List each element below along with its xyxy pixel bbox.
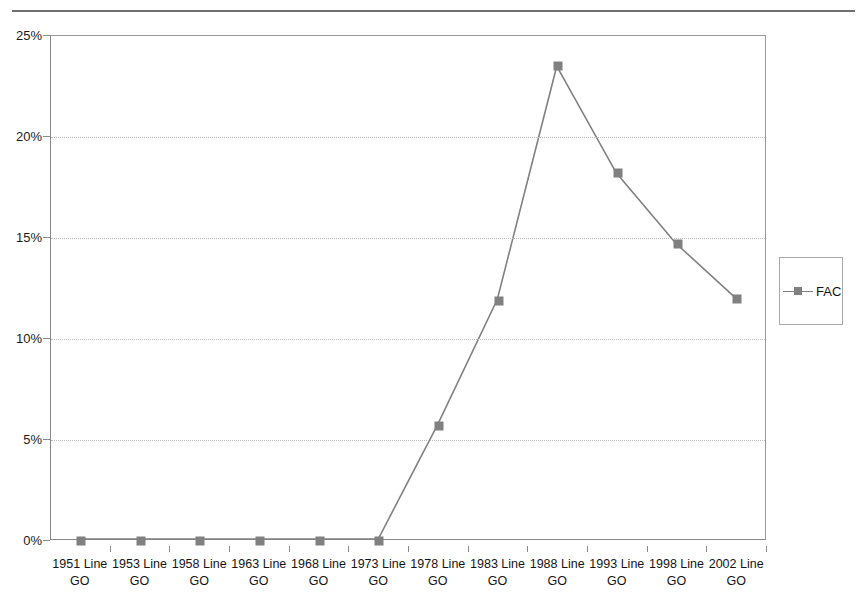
gridline: [51, 238, 765, 239]
x-tick-label: 1951 LineGO: [52, 556, 107, 590]
data-point-marker: [76, 537, 85, 546]
data-point-marker: [733, 294, 742, 303]
x-tick-label: 1963 LineGO: [231, 556, 286, 590]
data-point-marker: [196, 537, 205, 546]
x-tick-mark: [766, 546, 767, 552]
legend-square-marker-icon: [794, 287, 802, 295]
x-tick-label: 1983 LineGO: [470, 556, 525, 590]
y-tick-mark: [43, 35, 50, 36]
data-point-marker: [613, 169, 622, 178]
y-tick-label: 15%: [16, 230, 42, 245]
x-tick-label: 1968 LineGO: [291, 556, 346, 590]
data-point-marker: [136, 537, 145, 546]
series-line-fac: [51, 36, 765, 539]
x-tick-mark: [348, 546, 349, 552]
x-tick-label: 1988 LineGO: [530, 556, 585, 590]
x-tick-mark: [647, 546, 648, 552]
x-tick-label: 1973 LineGO: [351, 556, 406, 590]
data-point-marker: [494, 296, 503, 305]
data-point-marker: [375, 537, 384, 546]
legend-line-icon: [783, 287, 813, 296]
x-axis: 1951 LineGO1953 LineGO1958 LineGO1963 Li…: [50, 546, 766, 602]
data-point-marker: [673, 240, 682, 249]
x-tick-mark: [110, 546, 111, 552]
x-tick-mark: [527, 546, 528, 552]
y-tick-label: 0%: [23, 533, 42, 548]
y-tick-mark: [43, 439, 50, 440]
x-tick-label: 1953 LineGO: [112, 556, 167, 590]
y-tick-mark: [43, 136, 50, 137]
x-tick-mark: [468, 546, 469, 552]
plot-area: [50, 35, 766, 540]
chart-page: 0%5%10%15%20%25% 1951 LineGO1953 LineGO1…: [0, 0, 867, 608]
data-point-marker: [255, 537, 264, 546]
x-tick-label: 2002 LineGO: [709, 556, 764, 590]
x-tick-mark: [408, 546, 409, 552]
x-tick-mark: [587, 546, 588, 552]
y-tick-mark: [43, 338, 50, 339]
y-tick-label: 5%: [23, 432, 42, 447]
x-tick-mark: [289, 546, 290, 552]
y-tick-label: 25%: [16, 28, 42, 43]
x-tick-label: 1998 LineGO: [649, 556, 704, 590]
clipped-header-text: [300, 0, 600, 2]
gridline: [51, 137, 765, 138]
legend-label: FAC: [816, 284, 841, 299]
x-tick-label: 1958 LineGO: [172, 556, 227, 590]
y-axis: 0%5%10%15%20%25%: [0, 0, 46, 608]
y-tick-mark: [43, 237, 50, 238]
gridline: [51, 440, 765, 441]
gridline: [51, 339, 765, 340]
data-point-marker: [315, 537, 324, 546]
x-tick-label: 1978 LineGO: [410, 556, 465, 590]
x-tick-mark: [229, 546, 230, 552]
x-tick-mark: [706, 546, 707, 552]
y-tick-mark: [43, 540, 50, 541]
x-tick-label: 1993 LineGO: [589, 556, 644, 590]
data-point-marker: [434, 421, 443, 430]
y-tick-label: 10%: [16, 331, 42, 346]
data-point-marker: [554, 62, 563, 71]
legend-entry-fac: FAC: [783, 284, 841, 298]
chart-legend: FAC: [779, 257, 843, 325]
x-tick-mark: [169, 546, 170, 552]
y-tick-label: 20%: [16, 129, 42, 144]
header-divider: [12, 10, 855, 12]
